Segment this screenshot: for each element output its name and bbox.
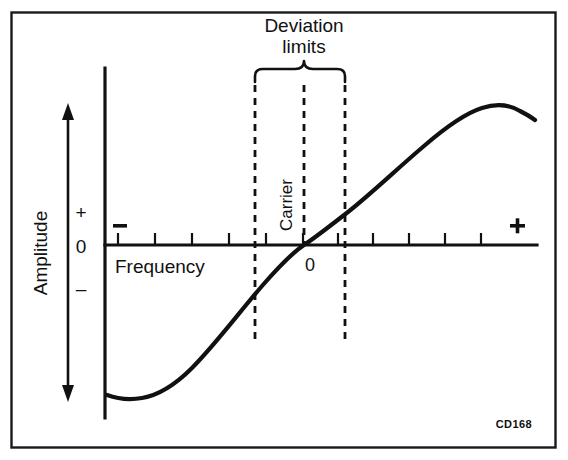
carrier-label: Carrier [277,179,296,231]
y-axis-zero-label: 0 [76,236,87,257]
frequency-axis-title: Frequency [115,256,205,277]
x-axis-zero-label: 0 [305,255,315,275]
y-axis-minus-label: – [76,278,87,299]
figure-root: Deviation limits Carrier Amplitude + 0 –… [0,0,568,460]
figure-code-label: CD168 [496,418,532,430]
deviation-limits-title-line1: Deviation [264,15,343,36]
deviation-limits-title-line2: limits [282,36,325,57]
discriminator-curve-figure: Deviation limits Carrier Amplitude + 0 –… [0,0,568,460]
amplitude-axis-title: Amplitude [30,211,51,296]
x-axis-minus-icon [113,224,127,228]
y-axis-plus-label: + [75,202,86,223]
